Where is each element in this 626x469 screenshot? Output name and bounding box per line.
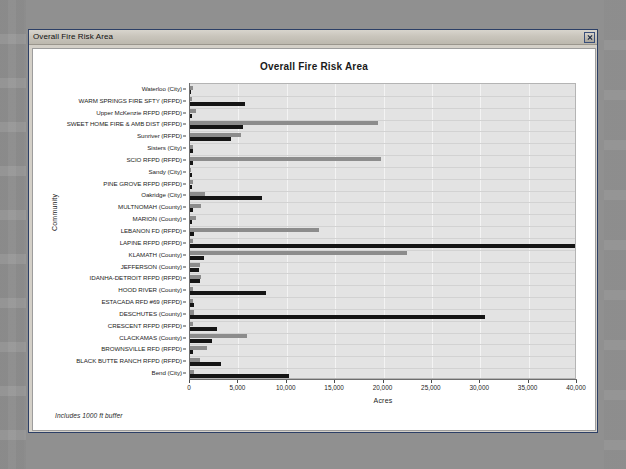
- x-axis-tick: [383, 380, 384, 383]
- bar-series-2: [190, 299, 193, 303]
- gridline-horizontal: [190, 356, 575, 357]
- y-axis-tick-label: SWEET HOME FIRE & AMB DIST (RFPD): [67, 121, 182, 127]
- bar-series-1: [190, 374, 289, 378]
- bar-series-2: [190, 133, 241, 137]
- gridline-horizontal: [190, 167, 575, 168]
- y-axis-tick: [183, 254, 186, 255]
- close-icon[interactable]: [584, 32, 595, 43]
- window-titlebar[interactable]: Overall Fire Risk Area: [29, 30, 597, 45]
- y-axis-tick: [183, 148, 186, 149]
- bar-series-2: [190, 263, 200, 267]
- bar-series-1: [190, 244, 576, 248]
- bar-series-2: [190, 334, 247, 338]
- bar-series-2: [190, 157, 381, 161]
- gridline-horizontal: [190, 214, 575, 215]
- bar-series-2: [190, 109, 196, 113]
- chart-footnote: Includes 1000 ft buffer: [55, 412, 123, 419]
- gridline-horizontal: [190, 333, 575, 334]
- plot-area: [189, 83, 576, 379]
- bar-series-1: [190, 362, 221, 366]
- bar-series-1: [190, 137, 231, 141]
- y-axis-tick: [183, 219, 186, 220]
- y-axis-tick: [183, 88, 186, 89]
- bar-series-2: [190, 192, 205, 196]
- y-axis-tick-label: JEFFERSON (County): [121, 263, 182, 269]
- gridline-horizontal: [190, 202, 575, 203]
- bar-series-1: [190, 339, 212, 343]
- y-axis-tick: [183, 231, 186, 232]
- y-axis-tick: [183, 195, 186, 196]
- y-axis-tick-label: CLACKAMAS (County): [119, 334, 182, 340]
- x-axis-tick: [576, 380, 577, 383]
- gridline-horizontal: [190, 344, 575, 345]
- x-axis-tick: [237, 380, 238, 383]
- bar-series-2: [190, 322, 193, 326]
- plot-background: [189, 83, 576, 379]
- y-axis-tick: [183, 159, 186, 160]
- bar-series-2: [190, 97, 192, 101]
- bar-series-1: [190, 268, 199, 272]
- bar-series-2: [190, 370, 194, 374]
- x-axis-tick: [189, 380, 190, 383]
- y-axis-tick-label: HOOD RIVER (County): [118, 287, 182, 293]
- bar-series-1: [190, 149, 193, 153]
- y-axis-tick-label: LEBANON FD (RFPD): [121, 228, 182, 234]
- x-axis-tick-label: 40,000: [566, 385, 586, 391]
- bar-series-1: [190, 256, 204, 260]
- x-axis-tick: [334, 380, 335, 383]
- bar-series-2: [190, 228, 319, 232]
- gridline-horizontal: [190, 368, 575, 369]
- bar-series-1: [190, 291, 266, 295]
- y-axis-tick-label: BROWNSVILLE RFD (RFPD): [101, 346, 182, 352]
- bar-series-1: [190, 303, 194, 307]
- y-axis-tick-label: KLAMATH (County): [129, 252, 182, 258]
- gridline-horizontal: [190, 285, 575, 286]
- y-axis-tick-label: Oakridge (City): [141, 192, 182, 198]
- chart-canvas: Overall Fire Risk Area Community Waterlo…: [32, 48, 596, 431]
- y-axis-tick-label: SCIO RFPD (RFPD): [126, 157, 182, 163]
- gridline-horizontal: [190, 131, 575, 132]
- bar-series-1: [190, 315, 485, 319]
- x-axis-tick-label: 20,000: [373, 385, 393, 391]
- bar-series-1: [190, 114, 192, 118]
- y-axis-tick: [183, 266, 186, 267]
- bar-series-2: [190, 346, 207, 350]
- y-axis-tick: [183, 242, 186, 243]
- gridline-horizontal: [190, 297, 575, 298]
- bar-series-2: [190, 180, 193, 184]
- y-axis-tick-label: Upper McKenzie RFPD (RFPD): [96, 109, 182, 115]
- y-axis-tick: [183, 124, 186, 125]
- y-axis-tick-label: ESTACADA RFD #69 (RFPD): [101, 299, 182, 305]
- bar-series-1: [190, 327, 217, 331]
- gridline-horizontal: [190, 179, 575, 180]
- bar-series-1: [190, 185, 192, 189]
- y-axis-tick-label: MARION (County): [133, 216, 182, 222]
- gridline-horizontal: [190, 238, 575, 239]
- gridline-horizontal: [190, 309, 575, 310]
- window-title: Overall Fire Risk Area: [33, 33, 584, 41]
- x-axis-title: Acres: [189, 397, 577, 404]
- gridline-horizontal: [190, 143, 575, 144]
- y-axis-tick: [183, 349, 186, 350]
- gridline-horizontal: [190, 96, 575, 97]
- y-axis-tick-label: Sunriver (RFPD): [137, 133, 182, 139]
- y-axis-tick: [183, 361, 186, 362]
- bar-series-2: [190, 310, 194, 314]
- bar-series-1: [190, 208, 193, 212]
- y-axis-tick-label: LAPINE RFPD (RFPD): [120, 240, 182, 246]
- x-axis-tick-label: 15,000: [324, 385, 344, 391]
- x-axis-tick-label: 0: [187, 385, 191, 391]
- y-axis-tick: [183, 313, 186, 314]
- bar-series-2: [190, 287, 193, 291]
- y-axis-tick: [183, 337, 186, 338]
- bar-series-1: [190, 102, 245, 106]
- y-axis-line: [189, 83, 190, 380]
- y-axis-tick: [183, 112, 186, 113]
- y-axis-tick: [183, 207, 186, 208]
- y-axis-tick: [183, 100, 186, 101]
- x-axis-tick-label: 25,000: [421, 385, 441, 391]
- y-axis-tick-label: MULTNOMAH (County): [118, 204, 182, 210]
- bar-series-1: [190, 196, 262, 200]
- bar-series-1: [190, 173, 192, 177]
- y-axis-tick-label: DESCHUTES (County): [119, 311, 182, 317]
